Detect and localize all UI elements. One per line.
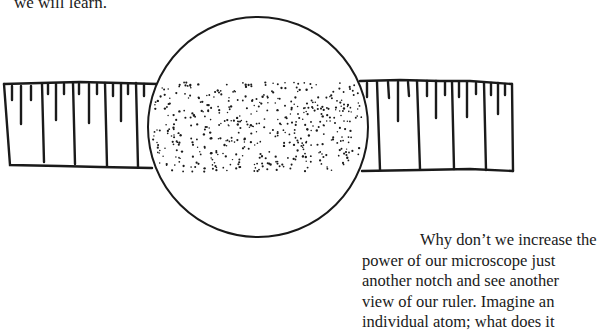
paragraph-line: another notch and see another: [362, 271, 562, 292]
paragraph-line: power of our microscope just: [362, 251, 562, 272]
ruler-right: [360, 80, 513, 171]
lens-circle: [148, 17, 368, 237]
paragraph-line: Why don’t we increase the: [362, 230, 562, 251]
paragraph-line: individual atom; what does it: [362, 312, 562, 332]
body-paragraph: Why don’t we increase the power of our m…: [362, 230, 562, 332]
ruler-left: [4, 82, 158, 168]
paragraph-line: view of our ruler. Imagine an: [362, 292, 562, 313]
